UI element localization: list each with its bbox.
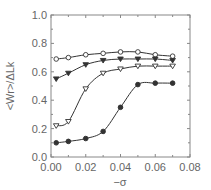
x-axis-label: −σ xyxy=(113,176,126,188)
y-tick-label: 1.0 xyxy=(32,9,47,21)
y-tick-label: 0.6 xyxy=(32,66,47,78)
filled-circle-marker xyxy=(54,141,59,146)
filled-circle-marker xyxy=(153,81,158,86)
filled-circle-marker xyxy=(170,81,175,86)
filled-triangle-marker xyxy=(53,77,59,82)
open-circle-marker xyxy=(136,50,141,55)
x-tick-label: 0.06 xyxy=(145,161,166,173)
open-circle-marker xyxy=(170,54,175,59)
y-tick-label: 0.8 xyxy=(32,37,47,49)
series-open-triangle-down xyxy=(53,64,175,128)
filled-circle-marker xyxy=(118,105,123,110)
plot-frame xyxy=(51,15,190,157)
filled-circle-marker xyxy=(101,129,106,134)
line-chart: 0.000.020.040.060.080.00.20.40.60.81.0 −… xyxy=(0,0,211,190)
open-circle-marker xyxy=(54,57,59,62)
open-triangle-marker xyxy=(100,71,106,76)
filled-circle-marker xyxy=(66,139,71,144)
open-triangle-marker xyxy=(83,87,89,92)
x-tick-label: 0.02 xyxy=(75,161,96,173)
open-circle-marker xyxy=(83,52,88,57)
x-tick-label: 0.08 xyxy=(179,161,200,173)
open-circle-marker xyxy=(118,50,123,55)
open-circle-marker xyxy=(101,51,106,56)
open-circle-marker xyxy=(66,55,71,60)
x-tick-label: 0.04 xyxy=(110,161,131,173)
filled-circle-marker xyxy=(83,136,88,141)
series-filled-triangle-down xyxy=(53,57,175,81)
open-circle-marker xyxy=(153,52,158,57)
filled-triangle-marker xyxy=(66,71,72,76)
y-axis-label: <Wr>/ΔLk xyxy=(4,61,16,110)
y-tick-label: 0.0 xyxy=(32,151,47,163)
y-tick-label: 0.4 xyxy=(32,94,47,106)
data-series xyxy=(53,50,175,145)
plot-border xyxy=(51,15,190,157)
filled-circle-marker xyxy=(136,82,141,87)
axis-ticks: 0.000.020.040.060.080.00.20.40.60.81.0 xyxy=(32,9,201,173)
series-filled-circle xyxy=(54,81,175,145)
y-tick-label: 0.2 xyxy=(32,123,47,135)
